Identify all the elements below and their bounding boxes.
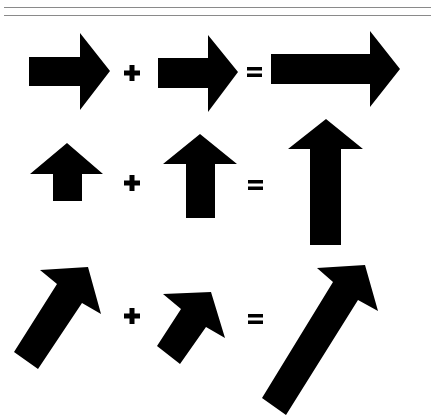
diagonal-operand-a-arrow-icon xyxy=(14,267,101,369)
vertical-plus-icon xyxy=(124,175,140,191)
horizontal-operand-b-arrow-icon xyxy=(158,35,238,112)
arrow-addition-diagram xyxy=(0,0,431,420)
diagonal-result-arrow-icon xyxy=(262,265,378,415)
diagonal-operand-b-arrow-icon xyxy=(157,292,225,364)
vertical-operand-b-arrow-icon xyxy=(163,134,237,218)
horizontal-operand-a-arrow-icon xyxy=(29,33,110,110)
vertical-result-arrow-icon xyxy=(288,119,363,245)
horizontal-equals-icon xyxy=(247,67,262,77)
row-horizontal xyxy=(29,31,400,112)
vertical-equals-icon xyxy=(248,180,263,190)
vertical-operand-a-arrow-icon xyxy=(30,143,103,201)
row-vertical xyxy=(30,119,363,245)
diagonal-equals-icon xyxy=(248,314,263,324)
diagonal-plus-icon xyxy=(124,308,140,324)
row-diagonal xyxy=(14,265,378,415)
horizontal-result-arrow-icon xyxy=(271,31,400,107)
horizontal-plus-icon xyxy=(124,65,140,81)
